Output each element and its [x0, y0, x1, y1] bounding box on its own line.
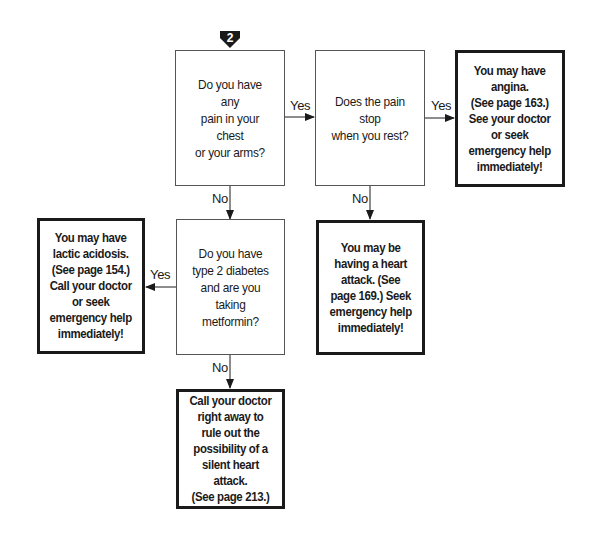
result-text: You may have angina. (See page 163.) See… [469, 63, 551, 175]
result-angina: You may have angina. (See page 163.) See… [455, 50, 565, 187]
question-chest-pain: Do you have any pain in your chest or yo… [175, 50, 285, 186]
result-text: You may be having a heart attack. (See p… [329, 240, 411, 336]
question-diabetes: Do you have type 2 diabetes and are you … [176, 219, 285, 355]
edge-label-yes: Yes [150, 267, 170, 282]
edge-label-no: No [212, 360, 228, 375]
result-text: You may have lactic acidosis. (See page … [50, 230, 132, 342]
edge-label-yes: Yes [290, 98, 310, 113]
edge-label-yes: Yes [431, 98, 451, 113]
result-lactic-acidosis: You may have lactic acidosis. (See page … [37, 218, 145, 354]
edge-label-no: No [352, 191, 368, 206]
result-silent-heart-attack: Call your doctor right away to rule out … [176, 389, 285, 509]
result-text: Call your doctor right away to rule out … [189, 393, 273, 505]
question-text: Do you have type 2 diabetes and are you … [189, 245, 273, 330]
edge-label-no: No [212, 191, 228, 206]
result-heart-attack: You may be having a heart attack. (See p… [316, 220, 425, 355]
step-number: 2 [218, 31, 242, 45]
question-text: Do you have any pain in your chest or yo… [188, 76, 272, 161]
question-text: Does the pain stop when you rest? [328, 93, 412, 144]
question-pain-stop: Does the pain stop when you rest? [315, 50, 425, 186]
step-2-marker: 2 [218, 31, 242, 49]
